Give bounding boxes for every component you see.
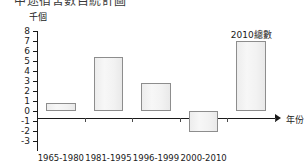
bar-annotation-label: 2010總數 (231, 28, 272, 41)
y-axis-tick (33, 101, 37, 102)
y-axis-tick-label: -2 (21, 126, 30, 136)
x-axis-tick (227, 118, 228, 122)
y-axis-tick (33, 41, 37, 42)
y-axis-tick (33, 131, 37, 132)
y-axis-tick-label: 3 (24, 76, 30, 86)
x-axis-tick (275, 118, 276, 122)
x-axis-title: 年份 (286, 113, 304, 126)
y-axis-tick-label: 4 (24, 66, 30, 76)
y-axis-tick-label: 5 (24, 56, 30, 66)
bar (141, 83, 171, 111)
y-axis-tick (33, 141, 37, 142)
y-axis-tick-label: 2 (24, 86, 30, 96)
y-axis-tick-label: -1 (21, 116, 30, 126)
y-axis-tick (33, 91, 37, 92)
y-axis-tick (33, 121, 37, 122)
y-axis-tick (33, 31, 37, 32)
y-axis-tick (33, 111, 37, 112)
x-axis-tick (85, 118, 86, 122)
x-axis-category-label: 1996-1999 (133, 153, 179, 163)
y-axis-tick-label: 6 (24, 46, 30, 56)
x-axis-tick (180, 118, 181, 122)
x-axis-category-label: 1965-1980 (38, 153, 84, 163)
bar (189, 111, 219, 132)
y-axis-tick (33, 51, 37, 52)
y-axis-line (37, 31, 38, 151)
y-axis-tick (33, 81, 37, 82)
bar (236, 41, 266, 111)
y-axis-unit-label: 千個 (29, 10, 47, 23)
y-axis-tick-label: 7 (24, 36, 30, 46)
x-axis-line (37, 118, 275, 119)
y-axis-tick-label: 8 (24, 26, 30, 36)
bar (94, 57, 124, 111)
plot-area: 年份 876543210-1-2-3 1965-19801981-1995199… (37, 31, 281, 151)
y-axis-tick-label: 0 (24, 106, 30, 116)
y-axis-tick (33, 61, 37, 62)
y-axis-tick-label: 1 (24, 96, 30, 106)
chart-title-clipped: 中途宿舍數目統計圖 (0, 0, 307, 7)
x-axis-category-label: 1981-1995 (85, 153, 131, 163)
y-axis-tick (33, 71, 37, 72)
x-axis-category-label: 2000-2010 (180, 153, 226, 163)
bar-chart: 中途宿舍數目統計圖 千個 年份 876543210-1-2-3 1965-198… (0, 0, 307, 168)
chart-title-text: 中途宿舍數目統計圖 (14, 0, 127, 7)
y-axis-tick-label: -3 (21, 136, 30, 146)
x-axis-tick (132, 118, 133, 122)
bar (46, 103, 76, 111)
